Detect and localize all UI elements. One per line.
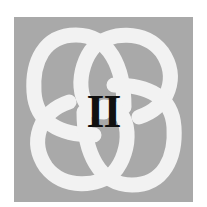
chapter-emblem: II xyxy=(14,17,193,202)
chapter-numeral: II xyxy=(14,17,193,202)
